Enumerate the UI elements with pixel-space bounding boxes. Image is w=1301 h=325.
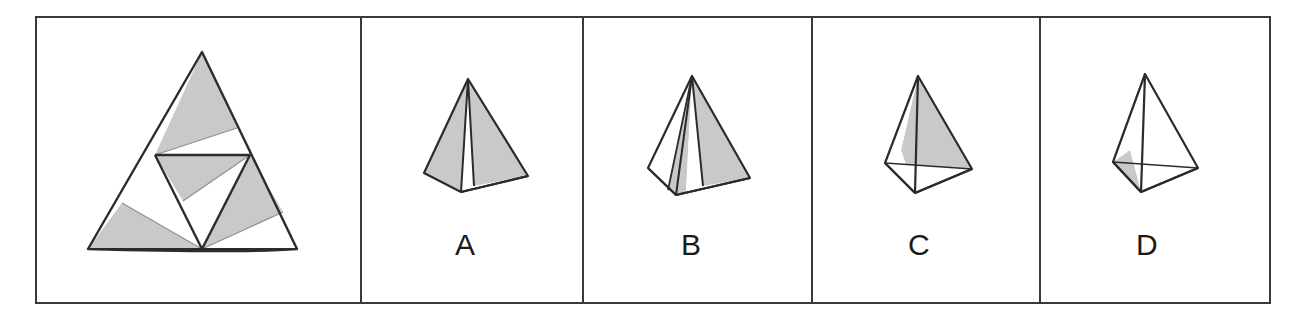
option-b-label: B (681, 228, 702, 262)
option-a-label: A (455, 228, 476, 262)
option-d-label: D (1136, 228, 1158, 262)
figure-root: A B C D (0, 0, 1301, 325)
option-c-label: C (908, 228, 930, 262)
option-d-drawing (1113, 74, 1198, 192)
net-top-face-shade (155, 52, 237, 155)
option-b-drawing (648, 76, 750, 195)
option-d-right-face (1141, 74, 1198, 192)
option-a-drawing (424, 79, 528, 192)
option-c-drawing (885, 76, 972, 193)
spatial-reasoning-figure (0, 0, 1301, 325)
net-left-face-shade (88, 203, 202, 249)
unfolded-net-drawing (88, 52, 297, 251)
